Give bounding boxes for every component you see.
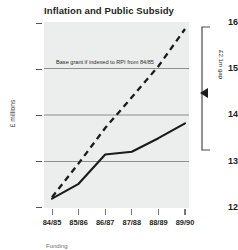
gap-arrow-icon	[200, 88, 208, 98]
x-tick-mark-88-89	[158, 209, 159, 215]
series-rpi-indexed-line	[52, 29, 185, 197]
y-tick-mark-12	[36, 207, 42, 208]
y-tick-mark-16	[36, 23, 42, 24]
y-axis-title: £ millions	[9, 86, 16, 142]
gap-bracket-label: £2.1m gap	[218, 50, 225, 79]
x-tick-mark-86-87	[105, 209, 106, 215]
gap-bracket	[198, 25, 238, 170]
y-tick-mark-13	[36, 161, 42, 162]
chart-footnote: Funding	[46, 243, 68, 249]
y-tick-label-12: 12	[212, 203, 238, 212]
rpi-series-annotation: Base grant if indexed to RPI from 84/85	[56, 59, 154, 65]
x-tick-mark-84-85	[52, 209, 53, 215]
x-tick-mark-89-90	[184, 209, 185, 215]
x-tick-mark-87-88	[131, 209, 132, 215]
x-tick-label-89-90: 89/90	[165, 218, 205, 227]
plot-area	[44, 22, 189, 208]
chart-figure: Inflation and Public Subsidy £ millions …	[0, 0, 238, 250]
x-tick-mark-85-86	[78, 209, 79, 215]
chart-title: Inflation and Public Subsidy	[44, 5, 174, 16]
y-tick-mark-14	[36, 115, 42, 116]
y-tick-mark-15	[36, 69, 42, 70]
